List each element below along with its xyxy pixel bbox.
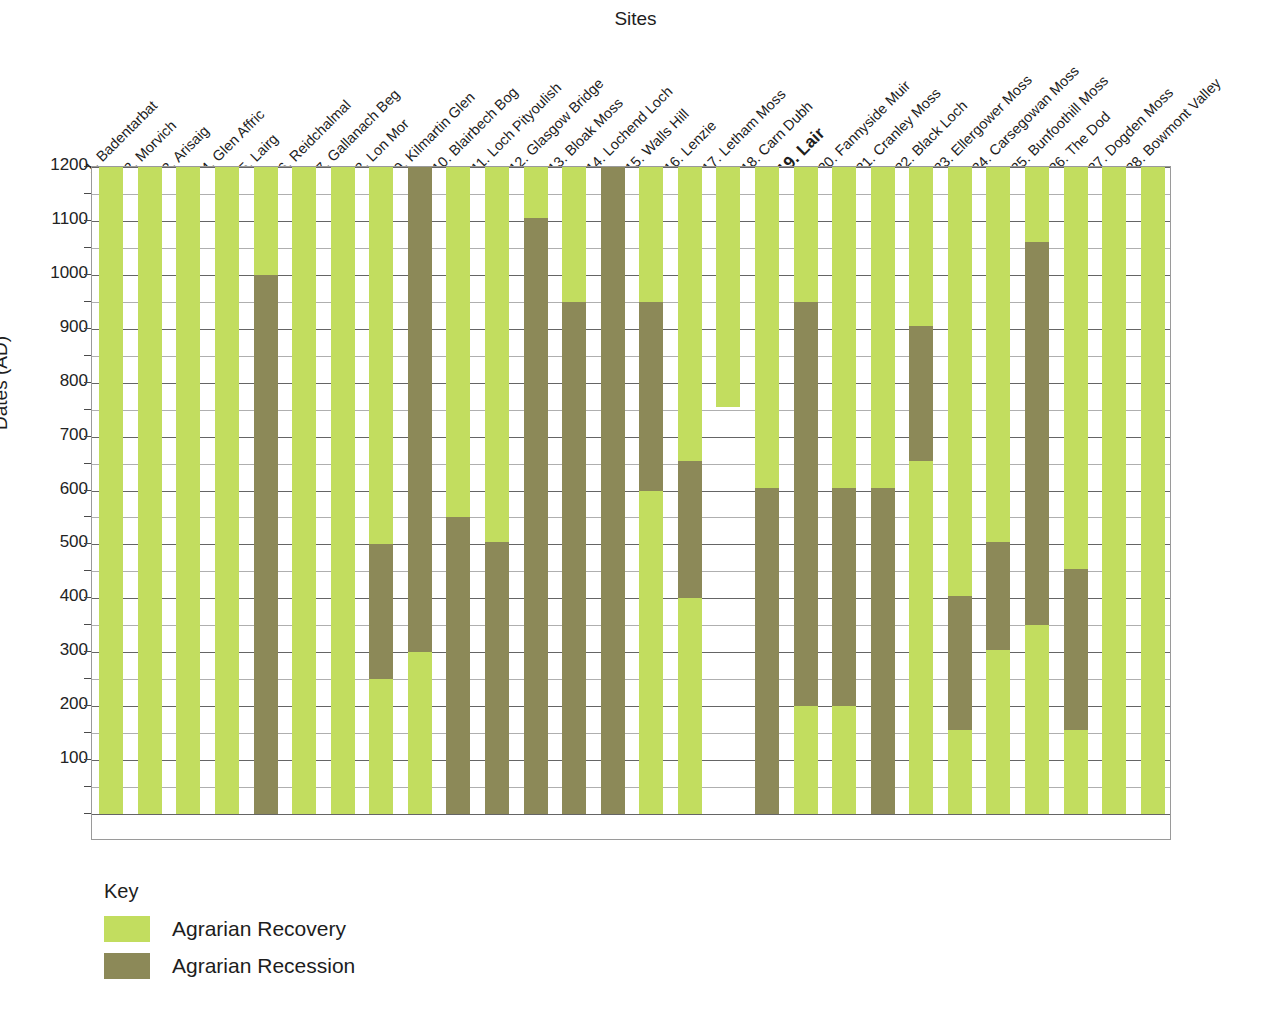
y-axis-tick-mark <box>84 597 91 598</box>
bar-segment-recession <box>408 167 432 652</box>
bar-segment-recovery <box>832 167 856 488</box>
bar-segment-recession <box>254 275 278 814</box>
bar-segment-recovery <box>755 167 779 488</box>
bar-column <box>1025 167 1049 839</box>
y-axis-tick-mark <box>84 624 91 625</box>
bar-segment-recovery <box>986 650 1010 814</box>
bar-segment-recovery <box>871 167 895 488</box>
chart-title: Sites <box>0 8 1271 30</box>
bar-segment-recovery <box>986 167 1010 542</box>
bar-column <box>1141 167 1165 839</box>
bar-column <box>99 167 123 839</box>
bar-segment-recovery <box>408 652 432 814</box>
bar-segment-recovery <box>909 167 933 326</box>
bar-segment-recession <box>794 302 818 706</box>
y-axis-tick-mark <box>84 651 91 652</box>
bar-column <box>1064 167 1088 839</box>
y-axis-tick-mark <box>84 463 91 464</box>
y-axis-tick-label: 600 <box>0 479 88 499</box>
y-axis-tick-label: 800 <box>0 371 88 391</box>
y-axis-tick-mark <box>84 813 91 814</box>
bar-segment-recovery <box>948 167 972 596</box>
bar-segment-recession <box>524 218 548 814</box>
bar-segment-recession <box>639 302 663 491</box>
bar-segment-recession <box>1064 569 1088 731</box>
y-axis-tick-mark <box>84 409 91 410</box>
bar-column <box>331 167 355 839</box>
bar-segment-recession <box>446 517 470 814</box>
bar-segment-recovery <box>639 167 663 302</box>
bar-segment-recovery <box>446 167 470 517</box>
bar-segment-recovery <box>1025 167 1049 242</box>
y-axis-tick-label: 900 <box>0 317 88 337</box>
bar-segment-recession <box>871 488 895 814</box>
legend-item: Agrarian Recovery <box>104 916 355 942</box>
bar-segment-recession <box>755 488 779 814</box>
bar-segment-recovery <box>1141 167 1165 814</box>
y-axis-tick-mark <box>84 786 91 787</box>
y-axis-tick-label: 200 <box>0 694 88 714</box>
bar-column <box>871 167 895 839</box>
bar-column <box>485 167 509 839</box>
bar-column <box>138 167 162 839</box>
y-axis-tick-mark <box>84 382 91 383</box>
y-axis-tick-label: 300 <box>0 640 88 660</box>
y-axis-tick-mark <box>84 490 91 491</box>
bar-column <box>639 167 663 839</box>
bar-column <box>755 167 779 839</box>
y-axis-tick-mark <box>84 247 91 248</box>
bar-column <box>948 167 972 839</box>
y-axis-tick-mark <box>84 732 91 733</box>
y-axis-tick-mark <box>84 301 91 302</box>
y-axis-tick-mark <box>84 705 91 706</box>
bar-segment-recovery <box>794 706 818 814</box>
legend-swatch-recession <box>104 953 150 979</box>
bar-column <box>986 167 1010 839</box>
bar-segment-recession <box>909 326 933 461</box>
y-axis-tick-label: 100 <box>0 748 88 768</box>
bar-segment-recovery <box>794 167 818 302</box>
bar-column <box>408 167 432 839</box>
bar-column <box>369 167 393 839</box>
y-axis-tick-label: 500 <box>0 532 88 552</box>
bar-segment-recession <box>1025 242 1049 625</box>
bar-segment-recovery <box>1064 730 1088 814</box>
bar-segment-recovery <box>331 167 355 814</box>
bar-segment-recovery <box>99 167 123 814</box>
bar-column <box>716 167 740 839</box>
y-axis-tick-mark <box>84 355 91 356</box>
y-axis-tick-mark <box>84 436 91 437</box>
bar-segment-recession <box>485 542 509 814</box>
bar-column <box>254 167 278 839</box>
y-axis-tick-label: 700 <box>0 425 88 445</box>
bar-segment-recovery <box>369 679 393 814</box>
y-axis-tick-mark <box>84 570 91 571</box>
bar-segment-recovery <box>678 167 702 461</box>
footnote-text <box>300 1012 1000 1026</box>
bar-segment-recession <box>832 488 856 706</box>
bar-segment-recovery <box>1102 167 1126 814</box>
y-axis-tick-label: 1200 <box>0 155 88 175</box>
bar-segment-recovery <box>1025 625 1049 814</box>
legend-label: Agrarian Recession <box>172 954 355 978</box>
legend-label: Agrarian Recovery <box>172 917 346 941</box>
bar-segment-recovery <box>138 167 162 814</box>
y-axis-tick-mark <box>84 220 91 221</box>
bar-segment-recovery <box>369 167 393 544</box>
bar-segment-recovery <box>678 598 702 814</box>
y-axis-tick-mark <box>84 274 91 275</box>
bar-column <box>446 167 470 839</box>
y-axis-tick-mark <box>84 516 91 517</box>
y-axis-tick-mark <box>84 678 91 679</box>
bar-segment-recession <box>678 461 702 598</box>
bar-segment-recovery <box>1064 167 1088 569</box>
legend: Key Agrarian RecoveryAgrarian Recession <box>104 880 355 990</box>
y-axis-tick-label: 400 <box>0 586 88 606</box>
bar-column <box>562 167 586 839</box>
bar-segment-recovery <box>909 461 933 814</box>
y-axis-tick-mark <box>84 328 91 329</box>
bar-segment-recovery <box>524 167 548 218</box>
bar-column <box>794 167 818 839</box>
bar-column <box>215 167 239 839</box>
legend-item: Agrarian Recession <box>104 953 355 979</box>
